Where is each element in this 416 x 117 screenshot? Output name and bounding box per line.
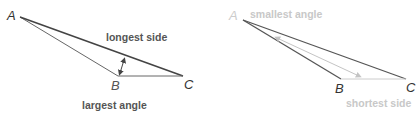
left-triangle: A B C longest side largest angle	[6, 8, 194, 111]
vertex-label-a: A	[228, 8, 238, 23]
vertex-label-b: B	[111, 78, 120, 93]
vertex-label-a: A	[6, 8, 16, 23]
smallest-angle-label: smallest angle	[250, 8, 323, 20]
vertex-label-c: C	[406, 80, 416, 95]
vertex-label-b: B	[335, 81, 344, 96]
longest-side-label: longest side	[106, 31, 167, 43]
right-triangle: A B C smallest angle shortest side	[228, 8, 416, 109]
triangle-diagram: A B C longest side largest angle A B C s…	[0, 0, 416, 117]
vertex-label-c: C	[184, 77, 194, 92]
largest-angle-label: largest angle	[82, 99, 147, 111]
side-ac	[243, 20, 406, 79]
side-ac-longest	[20, 17, 183, 76]
shortest-side-label: shortest side	[346, 97, 412, 109]
largest-angle-double-arrow-icon	[120, 60, 124, 73]
